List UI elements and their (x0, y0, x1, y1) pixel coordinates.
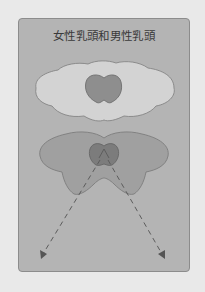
male-nipple-figure (40, 132, 169, 259)
female-nipple-shape (85, 75, 121, 103)
male-nipple-shape (89, 144, 118, 166)
page: 女性乳頭和男性乳頭 (0, 0, 205, 292)
nipple-comparison-illustration (0, 0, 205, 292)
female-nipple-figure (36, 61, 175, 121)
